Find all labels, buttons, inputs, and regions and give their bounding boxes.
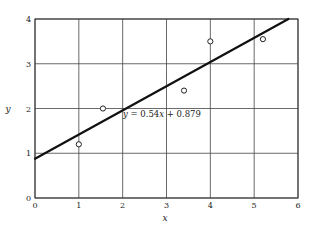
data-point-marker (76, 142, 81, 147)
chart: 0123456 01234 x y y = 0.54x + 0.879 (0, 0, 315, 228)
x-tick-label: 5 (252, 201, 257, 210)
data-point-marker (208, 39, 213, 44)
y-axis-label: y (4, 104, 11, 114)
x-tick-label: 6 (295, 201, 300, 210)
data-point-marker (181, 88, 186, 93)
y-tick-label: 4 (26, 15, 31, 24)
y-tick-label: 1 (26, 149, 31, 158)
equation-intercept: + 0.879 (164, 109, 201, 119)
x-tick-label: 4 (208, 201, 213, 210)
x-tick-labels: 0123456 (32, 201, 300, 210)
x-axis-label: x (162, 213, 167, 223)
regression-line (35, 19, 288, 159)
x-tick-label: 3 (164, 201, 169, 210)
data-point-marker (260, 37, 265, 42)
y-tick-label: 2 (26, 105, 31, 114)
equation-coef: = 0.54 (128, 109, 159, 119)
data-point-marker (100, 106, 105, 111)
y-tick-label: 0 (26, 194, 31, 203)
x-tick-label: 2 (120, 201, 125, 210)
x-tick-label: 1 (76, 201, 81, 210)
y-tick-label: 3 (26, 60, 31, 69)
x-tick-label: 0 (32, 201, 37, 210)
data-points (76, 37, 265, 147)
equation-annotation: y = 0.54x + 0.879 (122, 109, 201, 119)
y-tick-labels: 01234 (26, 15, 31, 203)
